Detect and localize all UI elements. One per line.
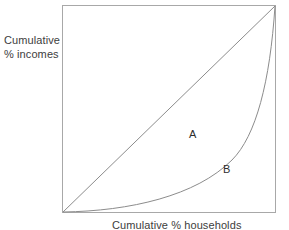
lorenz-curve-figure: Cumulative % incomes Cumulative % househ… xyxy=(0,0,289,230)
line-of-equality xyxy=(63,6,275,212)
y-axis-label-line-2: % incomes xyxy=(4,47,62,61)
y-axis-label: Cumulative % incomes xyxy=(4,33,62,61)
region-label-b: B xyxy=(223,164,230,175)
y-axis-label-line-1: Cumulative xyxy=(4,33,62,47)
region-label-a: A xyxy=(189,129,196,140)
x-axis-label: Cumulative % households xyxy=(112,218,241,230)
